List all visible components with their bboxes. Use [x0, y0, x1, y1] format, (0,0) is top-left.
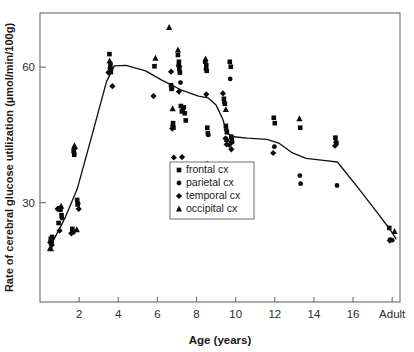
point-circle [222, 100, 227, 105]
legend-label-parietal-cx: parietal cx [186, 176, 235, 188]
point-square [298, 125, 303, 130]
point-triangle [202, 56, 208, 62]
legend-label-frontal-cx: frontal cx [186, 163, 229, 175]
point-diamond [109, 83, 115, 89]
point-diamond [179, 154, 185, 160]
plot-frame [40, 13, 400, 302]
point-triangle [71, 142, 77, 148]
x-tick-label-2: 2 [76, 308, 82, 320]
point-square [107, 52, 112, 57]
point-square [272, 121, 277, 126]
x-tick-label-12: 12 [268, 308, 281, 320]
glucose-utilization-figure: 246810121416Adult3060Age (years)Rate of … [0, 0, 414, 352]
point-square [205, 125, 210, 130]
point-circle [178, 80, 183, 85]
point-square [178, 70, 183, 75]
point-square [227, 59, 232, 64]
point-triangle [296, 115, 302, 121]
legend-label-occipital-cx: occipital cx [186, 202, 238, 214]
legend-marker-square [177, 168, 182, 173]
x-tick-label-14: 14 [308, 308, 321, 320]
x-tick-label-Adult: Adult [379, 308, 406, 320]
y-tick-label-60: 60 [22, 61, 35, 73]
point-triangle [152, 55, 158, 61]
point-triangle [223, 106, 229, 112]
point-square [176, 53, 181, 58]
point-triangle [175, 47, 181, 53]
point-diamond [171, 154, 177, 160]
point-circle [272, 144, 277, 149]
point-square [272, 115, 277, 120]
cropped-caption-strip [0, 0, 414, 7]
legend-label-temporal-cx: temporal cx [186, 189, 241, 201]
point-square [50, 235, 55, 240]
x-axis-title: Age (years) [189, 334, 252, 346]
point-circle [298, 181, 303, 186]
point-diamond [150, 93, 156, 99]
point-triangle [391, 228, 397, 234]
point-circle [228, 77, 233, 82]
point-circle [59, 216, 64, 221]
point-square [56, 221, 61, 226]
point-circle [335, 183, 340, 188]
series-temporal-cx [47, 69, 393, 249]
point-circle [224, 127, 229, 132]
x-tick-label-10: 10 [229, 308, 242, 320]
point-circle [180, 107, 185, 112]
point-square [183, 118, 188, 123]
point-square [152, 64, 157, 69]
point-square [387, 226, 392, 231]
point-circle [203, 67, 208, 72]
point-diamond [76, 206, 82, 212]
x-tick-label-16: 16 [347, 308, 360, 320]
point-circle [72, 151, 77, 156]
point-square [333, 135, 338, 140]
point-diamond [270, 150, 276, 156]
y-axis-title: Rate of cerebral glucose utilization (µm… [3, 23, 15, 293]
point-diamond [168, 69, 174, 75]
point-circle [206, 133, 211, 138]
legend-marker-circle [177, 181, 182, 186]
point-diamond [220, 90, 226, 96]
x-tick-label-8: 8 [193, 308, 199, 320]
point-triangle [170, 105, 176, 111]
point-circle [297, 173, 302, 178]
point-circle [76, 201, 81, 206]
x-tick-label-6: 6 [154, 308, 160, 320]
point-triangle [107, 57, 113, 63]
y-tick-label-30: 30 [22, 197, 35, 209]
point-triangle [166, 24, 172, 30]
x-tick-label-4: 4 [115, 308, 122, 320]
point-square [228, 64, 233, 69]
point-circle [170, 86, 175, 91]
scatter-chart: 246810121416Adult3060Age (years)Rate of … [0, 0, 414, 352]
